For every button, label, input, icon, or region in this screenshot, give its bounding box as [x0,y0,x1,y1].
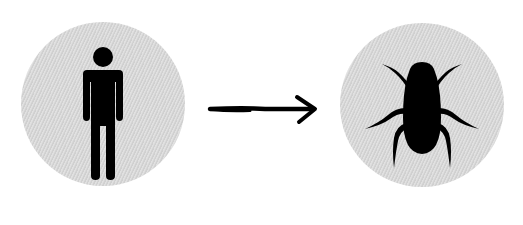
cockroach-icon [340,23,504,187]
person-circle: person [21,22,185,186]
arrow-right-icon: arrow [205,90,325,130]
cockroach-circle: cockroach [340,23,504,187]
person-icon [21,22,185,186]
